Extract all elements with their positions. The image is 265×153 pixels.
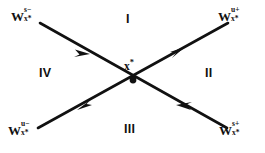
manifold-superscript: s−	[24, 6, 31, 14]
saddle-point-diagram: Ws−x* Wu+x* Wu−x* Ws+x* I II III IV x*	[0, 0, 265, 153]
manifold-superscript: s+	[232, 120, 239, 128]
manifold-scripts: s−x*	[24, 8, 35, 21]
manifold-subscript: x*	[232, 129, 240, 137]
manifold-label-unstable-minus: Wu−x*	[8, 122, 32, 137]
manifold-base-symbol: W	[11, 9, 24, 24]
manifold-subscript: x*	[231, 15, 239, 23]
manifold-superscript: u−	[21, 120, 29, 128]
manifold-scripts: s+x*	[232, 122, 243, 135]
manifold-superscript: u+	[231, 6, 239, 14]
quadrant-label-iii: III	[124, 123, 135, 136]
manifold-scripts: u+x*	[231, 8, 242, 21]
manifold-subscript: x*	[24, 15, 32, 23]
fixed-point-label: x*	[124, 58, 134, 72]
manifold-label-stable-minus: Ws−x*	[11, 8, 35, 23]
manifold-subscript: x*	[21, 129, 29, 137]
quadrant-label-ii: II	[205, 67, 213, 80]
manifold-label-unstable-plus: Wu+x*	[218, 8, 242, 23]
manifold-base-symbol: W	[219, 123, 232, 138]
manifold-scripts: u−x*	[21, 122, 32, 135]
quadrant-label-iv: IV	[39, 67, 51, 80]
manifold-base-symbol: W	[8, 123, 21, 138]
fixed-point-marker	[130, 77, 137, 84]
manifold-base-symbol: W	[218, 9, 231, 24]
manifold-label-stable-plus: Ws+x*	[219, 122, 243, 137]
quadrant-label-i: I	[126, 13, 130, 26]
fixed-point-star: *	[130, 57, 134, 67]
